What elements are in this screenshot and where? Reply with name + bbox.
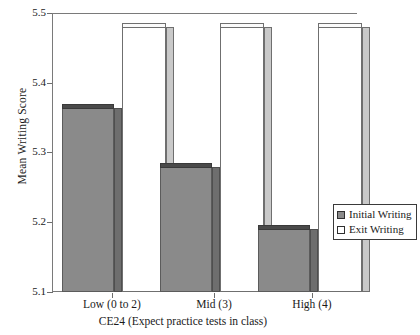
bar-top-face xyxy=(122,23,166,28)
bar-initial-mid xyxy=(160,167,212,292)
legend-swatch-icon xyxy=(337,226,345,234)
y-tick-label: 5.5 xyxy=(32,7,46,18)
y-tick-label: 5.3 xyxy=(32,146,46,157)
y-tick-label: 5.4 xyxy=(32,77,46,88)
x-tick-label-low: Low (0 to 2) xyxy=(62,298,162,310)
x-tick-label-mid: Mid (3) xyxy=(164,298,264,310)
bar-side-face xyxy=(362,27,370,292)
plot-area xyxy=(52,13,357,292)
chart-figure: Mean Writing Score 5.5 5.4 5.3 5.2 5.1 xyxy=(0,0,420,335)
bar-initial-low xyxy=(62,108,114,292)
bar-front-face xyxy=(318,27,362,292)
bar-initial-high xyxy=(258,229,310,292)
y-tick-label: 5.1 xyxy=(32,286,46,297)
y-axis-ticks: 5.5 5.4 5.3 5.2 5.1 xyxy=(0,0,46,335)
bar-side-face xyxy=(310,229,318,292)
bar-top-face xyxy=(160,163,212,168)
legend-swatch-icon xyxy=(337,211,345,219)
bar-front-face xyxy=(62,108,114,292)
legend: Initial Writing Exit Writing xyxy=(333,204,417,240)
legend-item-initial-writing: Initial Writing xyxy=(337,208,412,221)
legend-item-exit-writing: Exit Writing xyxy=(337,223,412,236)
bar-front-face xyxy=(258,229,310,292)
y-tick-label: 5.2 xyxy=(32,216,46,227)
legend-label: Exit Writing xyxy=(349,224,404,235)
bar-front-face xyxy=(160,167,212,292)
y-tick-mark xyxy=(47,292,53,293)
bar-side-face xyxy=(114,108,122,292)
bar-top-face xyxy=(318,23,362,28)
bar-top-face xyxy=(220,23,264,28)
bar-exit-high xyxy=(318,27,362,292)
bar-top-face xyxy=(62,104,114,109)
x-axis-title: CE24 (Expect practice tests in class) xyxy=(0,315,366,327)
bar-top-face xyxy=(258,225,310,230)
x-tick-label-high: High (4) xyxy=(262,298,362,310)
bar-side-face xyxy=(212,167,220,292)
legend-label: Initial Writing xyxy=(349,209,412,220)
